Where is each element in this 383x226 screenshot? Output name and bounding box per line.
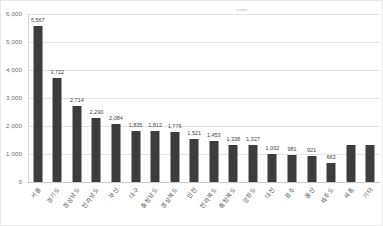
y-axis-tick-label: 3,000: [0, 95, 22, 101]
bar[interactable]: [190, 139, 199, 182]
x-axis-label-slot: 서울: [28, 184, 48, 225]
x-axis-label-slot: 경상북도: [165, 184, 185, 225]
bar-series: 5,5673,7222,7142,2902,0841,8351,8121,776…: [28, 14, 380, 182]
bar-value-label: 2,714: [70, 98, 84, 104]
bar-slot: 2,290: [87, 14, 107, 182]
bar-value-label: 1,338: [226, 137, 240, 143]
y-axis-tick-label: 2,000: [0, 123, 22, 129]
bar[interactable]: [170, 132, 179, 182]
x-axis-label-slot: 광주: [282, 184, 302, 225]
bar-slot: 921: [302, 14, 322, 182]
bar[interactable]: [92, 118, 101, 182]
bar-slot: 2,714: [67, 14, 87, 182]
bar-slot: [360, 14, 380, 182]
bar-chart: 6,0005,0004,0003,0002,0001,0000 5,5673,7…: [0, 0, 383, 226]
bar[interactable]: [346, 145, 355, 182]
bar-slot: 981: [282, 14, 302, 182]
y-axis-tick-label: 6,000: [0, 11, 22, 17]
bar-slot: 1,002: [263, 14, 283, 182]
x-axis-label-slot: 기타: [360, 184, 380, 225]
y-axis-tick-label: 5,000: [0, 39, 22, 45]
bar[interactable]: [131, 131, 140, 182]
y-axis-tick-label: 0: [0, 179, 22, 185]
bar-value-label: 921: [307, 148, 316, 154]
x-axis-label-slot: 전라남도: [87, 184, 107, 225]
bar-slot: 1,776: [165, 14, 185, 182]
bar[interactable]: [229, 145, 238, 182]
bar-value-label: 1,327: [246, 137, 260, 143]
bar-value-label: 1,776: [168, 124, 182, 130]
x-axis-label-slot: 울산: [302, 184, 322, 225]
bar-slot: 5,567: [28, 14, 48, 182]
x-axis-label-slot: 강원도: [243, 184, 263, 225]
bar-slot: [341, 14, 361, 182]
x-axis-label-slot: 충청북도: [224, 184, 244, 225]
bar[interactable]: [33, 26, 42, 182]
bar-slot: 663: [321, 14, 341, 182]
bar-value-label: 1,835: [129, 123, 143, 129]
bar[interactable]: [111, 124, 120, 182]
x-axis-label-slot: 부산: [106, 184, 126, 225]
bar-value-label: 2,290: [90, 110, 104, 116]
bar-slot: 1,521: [184, 14, 204, 182]
x-axis-category-labels: 서울경기도경상남도전라남도부산대구충청남도경상북도인천전라북도충청북도강원도대전…: [28, 184, 380, 225]
bar[interactable]: [366, 145, 375, 182]
bar-value-label: 663: [327, 155, 336, 161]
bar-slot: 1,453: [204, 14, 224, 182]
bar-slot: 2,084: [106, 14, 126, 182]
bar[interactable]: [209, 141, 218, 182]
bar-value-label: 1,812: [148, 123, 162, 129]
bar[interactable]: [307, 156, 316, 182]
top-divider-mark: [236, 9, 247, 11]
bar-value-label: 1,002: [266, 146, 280, 152]
bar-slot: 1,338: [224, 14, 244, 182]
bar-slot: 1,812: [145, 14, 165, 182]
y-axis-tick-label: 1,000: [0, 151, 22, 157]
bar[interactable]: [72, 106, 81, 182]
bar[interactable]: [151, 131, 160, 182]
bar-slot: 1,327: [243, 14, 263, 182]
x-axis-label-slot: 제주도: [321, 184, 341, 225]
bar-value-label: 981: [287, 147, 296, 153]
bar-slot: 3,722: [48, 14, 68, 182]
y-axis-tick-label: 4,000: [0, 67, 22, 73]
bar-value-label: 5,567: [31, 18, 45, 24]
plot-area: 5,5673,7222,7142,2902,0841,8351,8121,776…: [28, 14, 380, 182]
bar-slot: 1,835: [126, 14, 146, 182]
bar[interactable]: [53, 78, 62, 182]
bar-value-label: 3,722: [50, 70, 64, 76]
bar[interactable]: [248, 145, 257, 182]
x-axis-label-slot: 세종: [341, 184, 361, 225]
bar-value-label: 2,084: [109, 116, 123, 122]
bar-value-label: 1,453: [207, 133, 221, 139]
x-axis-label-slot: 대전: [263, 184, 283, 225]
bar-value-label: 1,521: [187, 131, 201, 137]
